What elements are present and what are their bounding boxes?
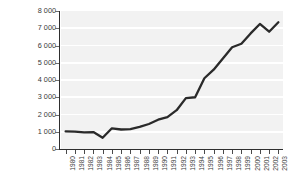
x-axis-tick-mark (103, 150, 104, 154)
x-axis-tick-mark (251, 150, 252, 154)
y-axis-line (59, 11, 60, 150)
x-axis-tick-mark (241, 150, 242, 154)
x-axis-tick-mark (260, 150, 261, 154)
x-axis-tick-mark (232, 150, 233, 154)
y-axis-tick-mark (55, 132, 59, 133)
y-axis-tick-mark (55, 115, 59, 116)
x-axis-tick-label: 1989 (152, 156, 160, 186)
x-axis-tick-label: 2002 (272, 156, 280, 186)
x-axis-tick-mark (195, 150, 196, 154)
x-axis-tick-mark (223, 150, 224, 154)
y-axis-tick-mark (55, 97, 59, 98)
y-axis-tick-label: 1 000 (28, 128, 56, 136)
x-axis-tick-label: 1980 (69, 156, 77, 186)
x-axis-tick-mark (167, 150, 168, 154)
x-axis-tick-label: 1999 (244, 156, 252, 186)
x-axis-tick-label: 1997 (226, 156, 234, 186)
x-axis-tick-mark (84, 150, 85, 154)
y-axis-tick-mark (55, 80, 59, 81)
y-axis-tick-labels: 01 0002 0003 0004 0005 0006 0007 0008 00… (28, 11, 56, 149)
y-axis-tick-label: 2 000 (28, 111, 56, 119)
x-axis-tick-mark (93, 150, 94, 154)
x-axis-tick-mark (75, 150, 76, 154)
y-axis-tick-label: 0 (28, 145, 56, 153)
y-axis-tick-mark (55, 46, 59, 47)
x-axis-tick-label: 1985 (115, 156, 123, 186)
line-chart-figure: Millions of United States dollars 01 000… (0, 0, 293, 190)
data-series-line (61, 11, 283, 149)
x-axis-tick-mark (177, 150, 178, 154)
y-axis-tick-mark (55, 149, 59, 150)
x-axis-tick-mark (158, 150, 159, 154)
y-axis-tick-label: 6 000 (28, 42, 56, 50)
x-axis-tick-label: 1988 (143, 156, 151, 186)
y-axis-tick-label: 3 000 (28, 93, 56, 101)
plot-area (61, 11, 283, 149)
x-axis-tick-mark (214, 150, 215, 154)
x-axis-tick-label: 1996 (217, 156, 225, 186)
x-axis-tick-label: 1990 (161, 156, 169, 186)
x-axis-tick-label: 1983 (96, 156, 104, 186)
x-axis-tick-mark (149, 150, 150, 154)
x-axis-tick-mark (186, 150, 187, 154)
y-axis-tick-label: 5 000 (28, 59, 56, 67)
y-axis-tick-label: 7 000 (28, 24, 56, 32)
y-axis-tick-mark (55, 11, 59, 12)
x-axis-tick-label: 2000 (254, 156, 262, 186)
x-axis-tick-mark (121, 150, 122, 154)
y-axis-tick-label: 4 000 (28, 76, 56, 84)
x-axis-tick-label: 2003 (281, 156, 289, 186)
x-axis-tick-label: 1981 (78, 156, 86, 186)
x-axis-tick-label: 1987 (133, 156, 141, 186)
y-axis-tick-label: 8 000 (28, 7, 56, 15)
x-axis-tick-mark (130, 150, 131, 154)
x-axis-tick-label: 1984 (106, 156, 114, 186)
x-axis-tick-label: 1991 (170, 156, 178, 186)
x-axis-tick-mark (66, 150, 67, 154)
x-axis-tick-label: 1998 (235, 156, 243, 186)
x-axis-tick-label: 2001 (263, 156, 271, 186)
x-axis-tick-label: 1986 (124, 156, 132, 186)
y-axis-tick-mark (55, 63, 59, 64)
x-axis-tick-label: 1982 (87, 156, 95, 186)
x-axis-tick-mark (278, 150, 279, 154)
x-axis-tick-label: 1995 (207, 156, 215, 186)
x-axis-tick-label: 1993 (189, 156, 197, 186)
x-axis-tick-mark (112, 150, 113, 154)
x-axis-tick-mark (269, 150, 270, 154)
y-axis-tick-mark (55, 28, 59, 29)
x-axis-tick-mark (140, 150, 141, 154)
x-axis-tick-label: 1992 (180, 156, 188, 186)
x-axis-tick-label: 1994 (198, 156, 206, 186)
x-axis-tick-mark (204, 150, 205, 154)
